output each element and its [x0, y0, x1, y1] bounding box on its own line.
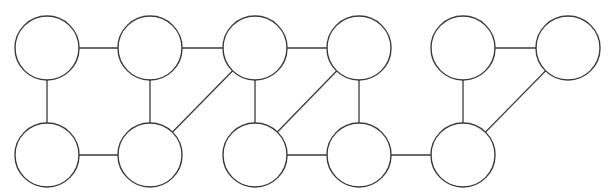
node-b4 — [327, 123, 391, 187]
node-b5 — [431, 123, 495, 187]
node-b2 — [118, 123, 182, 187]
node-t4 — [327, 16, 391, 80]
node-t1 — [15, 16, 79, 80]
node-t2 — [118, 16, 182, 80]
node-t6 — [536, 16, 600, 80]
graph-diagram — [0, 0, 610, 196]
node-t5 — [431, 16, 495, 80]
node-b1 — [15, 123, 79, 187]
node-t3 — [223, 16, 287, 80]
node-b3 — [223, 123, 287, 187]
